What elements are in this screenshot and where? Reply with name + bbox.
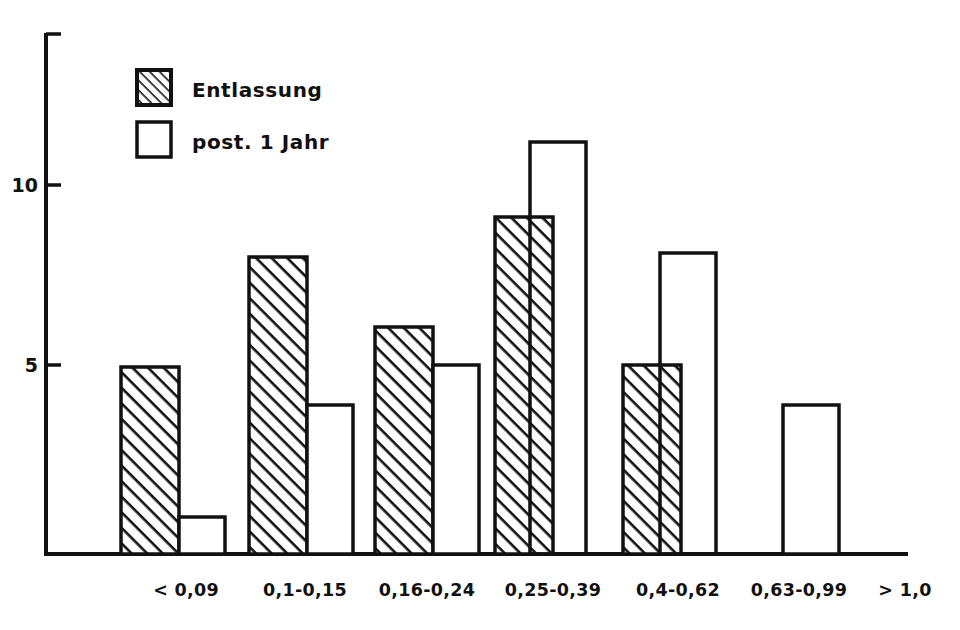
- bar-group-1: [121, 367, 225, 554]
- bar-post1jahr-2: [307, 405, 353, 554]
- x-tick-label-3: 0,16-0,24: [379, 580, 475, 600]
- bar-group-3: [375, 327, 479, 554]
- legend-label-entlassung: Entlassung: [192, 78, 322, 102]
- legend: Entlassung post. 1 Jahr: [137, 70, 329, 157]
- x-tick-label-2: 0,1-0,15: [263, 580, 347, 600]
- bar-entlassung-1: [121, 367, 179, 554]
- bar-chart-figure: 10 5: [0, 0, 960, 630]
- chart-canvas: 10 5: [0, 0, 960, 630]
- y-tick-labels: 10 5: [12, 174, 38, 376]
- y-tick-label-5: 5: [25, 354, 38, 376]
- bar-post1jahr-3: [433, 365, 479, 554]
- bar-group-2: [249, 257, 353, 554]
- bar-group-5: [623, 253, 716, 554]
- x-tick-label-1: < 0,09: [153, 580, 219, 600]
- hatched-swatch-icon: [137, 70, 171, 105]
- x-tick-labels: < 0,09 0,1-0,15 0,16-0,24 0,25-0,39 0,4-…: [153, 580, 932, 600]
- legend-item-entlassung: Entlassung: [137, 70, 322, 105]
- x-tick-label-7: > 1,0: [878, 580, 931, 600]
- bar-post1jahr-1: [179, 517, 225, 554]
- y-tick-label-10: 10: [12, 174, 38, 196]
- x-tick-label-6: 0,63-0,99: [751, 580, 847, 600]
- outline-swatch-icon: [137, 122, 171, 157]
- x-tick-label-5: 0,4-0,62: [636, 580, 720, 600]
- bar-entlassung-4: [495, 217, 553, 554]
- x-tick-label-4: 0,25-0,39: [505, 580, 601, 600]
- legend-label-post1jahr: post. 1 Jahr: [192, 130, 329, 154]
- legend-item-post1jahr: post. 1 Jahr: [137, 122, 329, 157]
- bar-post1jahr-6: [783, 405, 839, 554]
- bar-entlassung-5: [623, 365, 681, 554]
- bar-entlassung-3: [375, 327, 433, 554]
- bar-entlassung-2: [249, 257, 307, 554]
- bar-group-6: [783, 405, 839, 554]
- bar-group-4: [495, 142, 586, 554]
